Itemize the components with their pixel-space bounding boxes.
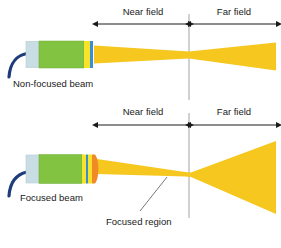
focused-region-leader [140, 177, 167, 211]
probe-housing-top [26, 42, 39, 68]
diagram-canvas: Near field Far field Non-focused beam Ne… [0, 0, 281, 248]
probe-second-layer-bottom [88, 155, 92, 184]
far-field-label-top: Far field [217, 6, 251, 17]
probe-front-face-bottom [86, 155, 88, 184]
probe-cable-top [9, 54, 27, 78]
probe-matching-layer-bottom [82, 155, 86, 184]
probe-matching-layer-top [84, 41, 90, 68]
near-field-label-top: Near field [123, 6, 164, 17]
near-field-label-bottom: Near field [123, 106, 164, 117]
ultrasound-beam-diagram: Near field Far field Non-focused beam Ne… [0, 0, 281, 248]
probe-element-top [39, 41, 84, 68]
probe-focusing-lens [92, 155, 98, 184]
far-field-label-bottom: Far field [217, 106, 251, 117]
probe-housing-bottom [26, 155, 39, 183]
focused-beam-shape [97, 141, 276, 214]
non-focused-beam-shape [94, 43, 276, 71]
probe-element-bottom [39, 155, 82, 184]
non-focused-beam-label: Non-focused beam [13, 78, 93, 89]
focused-region-label: Focused region [106, 216, 171, 227]
probe-front-face-top [90, 41, 93, 68]
focused-beam-label: Focused beam [20, 192, 83, 203]
